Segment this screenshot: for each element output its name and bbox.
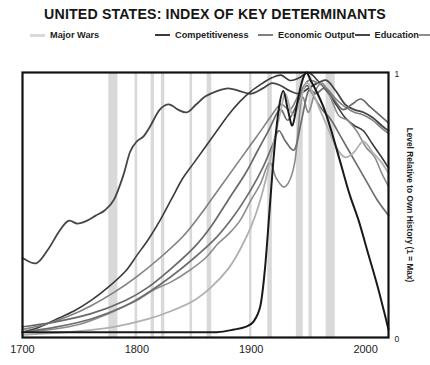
y-tick-label-min: 0 [395, 334, 400, 344]
war-band-1965 [326, 73, 335, 338]
y-tick-label-max: 1 [395, 69, 400, 79]
chart-svg: 1700180019002000 10 Level Relative to Ow… [0, 0, 430, 365]
y-axis-title: Level Relative to Own History (1 = Max) [405, 128, 415, 283]
x-tick-label: 2000 [353, 343, 377, 355]
war-band-1846 [189, 73, 192, 338]
x-tick-label: 1900 [239, 343, 263, 355]
y-axis-ticks: 10 [395, 69, 400, 344]
war-band-1821 [161, 73, 164, 338]
x-tick-label: 1800 [125, 343, 149, 355]
war-band-1812 [151, 73, 154, 338]
x-axis-ticks: 1700180019002000 [10, 343, 378, 355]
war-band-1798 [135, 73, 138, 338]
plot-area: 1700180019002000 10 Level Relative to Ow… [0, 0, 430, 365]
chart-screenshot: UNITED STATES: INDEX OF KEY DETERMINANTS… [0, 0, 430, 365]
x-tick-label: 1700 [10, 343, 34, 355]
